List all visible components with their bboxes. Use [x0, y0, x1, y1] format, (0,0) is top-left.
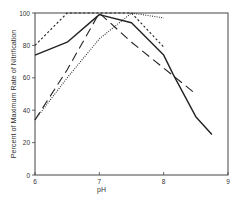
- series-line-dotted: [35, 13, 164, 120]
- y-tick-label: 60: [23, 74, 31, 81]
- y-tick-label: 80: [23, 42, 31, 49]
- series-line-short-dash: [35, 13, 164, 47]
- x-tick-label: 7: [98, 178, 102, 185]
- y-tick-label: 100: [19, 10, 30, 17]
- y-tick-label: 40: [23, 107, 31, 114]
- x-tick-label: 8: [162, 178, 166, 185]
- plot-area: 0204060801006789: [0, 0, 242, 199]
- y-axis-title: Percent of Maximum Rate of Nitrification: [9, 30, 18, 159]
- y-tick-label: 20: [23, 139, 31, 146]
- x-tick-label: 6: [33, 178, 37, 185]
- x-tick-label: 9: [226, 178, 230, 185]
- series-line-long-dash: [35, 13, 196, 120]
- series-line-solid: [35, 15, 212, 135]
- x-axis-title: pH: [97, 186, 106, 193]
- y-tick-label: 0: [26, 172, 30, 179]
- plot-frame: [35, 13, 228, 175]
- chart-figure: 0204060801006789 Percent of Maximum Rate…: [0, 0, 242, 199]
